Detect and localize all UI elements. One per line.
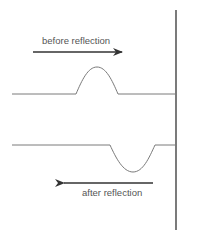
before-reflection-label: before reflection	[42, 36, 110, 46]
reflected-pulse-wave	[12, 145, 176, 172]
after-reflection-label: after reflection	[82, 188, 142, 198]
incident-pulse-wave	[12, 67, 176, 94]
